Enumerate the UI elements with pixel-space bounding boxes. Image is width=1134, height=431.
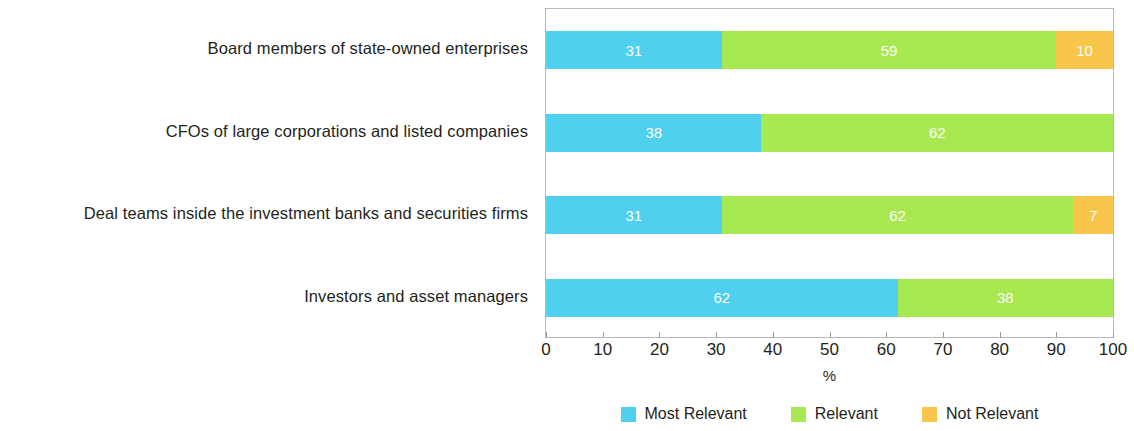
bar-segment: 7 — [1073, 196, 1113, 234]
x-axis-tick-label: 90 — [1047, 340, 1066, 360]
x-axis-tick-label: 70 — [933, 340, 952, 360]
x-axis-tick — [1000, 332, 1001, 338]
category-axis-labels: Board members of state-owned enterprises… — [0, 8, 536, 338]
bar-segment: 10 — [1056, 31, 1113, 69]
bar-segment-value: 59 — [881, 43, 898, 58]
bar-segment-value: 7 — [1089, 208, 1097, 223]
plot-area: 3159103862316276238 — [545, 8, 1114, 338]
x-axis-tick — [886, 332, 887, 338]
bar-segment: 59 — [722, 31, 1057, 69]
bar-segment-value: 62 — [713, 290, 730, 305]
x-axis-tick — [546, 332, 547, 338]
legend-swatch-icon — [791, 407, 806, 422]
x-axis-tick — [830, 332, 831, 338]
bar-row: 31627 — [546, 196, 1113, 234]
bar-segment: 62 — [761, 114, 1113, 152]
x-axis-tick-label: 0 — [541, 340, 550, 360]
stacked-bar-chart-figure: Board members of state-owned enterprises… — [0, 0, 1134, 431]
legend-swatch-icon — [621, 407, 636, 422]
category-label-3: Investors and asset managers — [0, 287, 528, 305]
x-axis-tick-label: 80 — [990, 340, 1009, 360]
x-axis-tick — [603, 332, 604, 338]
bar-segment-value: 38 — [997, 290, 1014, 305]
bar-segment: 31 — [546, 31, 722, 69]
x-axis-tick-label: 40 — [763, 340, 782, 360]
bar-row: 6238 — [546, 279, 1113, 317]
x-axis-tick — [773, 332, 774, 338]
bar-segment: 38 — [546, 114, 761, 152]
legend-label: Not Relevant — [946, 405, 1039, 423]
x-axis-tick-label: 50 — [820, 340, 839, 360]
bar-row: 315910 — [546, 31, 1113, 69]
bar-segment: 62 — [546, 279, 898, 317]
bar-segment: 62 — [722, 196, 1074, 234]
legend-item: Most Relevant — [621, 405, 747, 423]
x-axis-title: % — [545, 367, 1114, 384]
x-axis: 0102030405060708090100 — [545, 338, 1114, 368]
x-axis-tick — [659, 332, 660, 338]
legend-label: Most Relevant — [645, 405, 747, 423]
chart-legend: Most RelevantRelevantNot Relevant — [545, 403, 1114, 425]
x-axis-tick — [1056, 332, 1057, 338]
bars-container: 3159103862316276238 — [546, 9, 1113, 337]
x-axis-tick-label: 20 — [650, 340, 669, 360]
category-label-2: Deal teams inside the investment banks a… — [0, 204, 528, 222]
bar-segment-value: 31 — [626, 208, 643, 223]
legend-item: Not Relevant — [922, 405, 1039, 423]
bar-segment: 31 — [546, 196, 722, 234]
x-axis-tick — [943, 332, 944, 338]
bar-segment-value: 62 — [889, 208, 906, 223]
category-label-1: CFOs of large corporations and listed co… — [0, 122, 528, 140]
x-axis-tick-label: 100 — [1099, 340, 1127, 360]
x-axis-tick — [1113, 332, 1114, 338]
legend-item: Relevant — [791, 405, 878, 423]
bar-row: 3862 — [546, 114, 1113, 152]
x-axis-tick-label: 30 — [707, 340, 726, 360]
bar-segment-value: 62 — [929, 125, 946, 140]
category-label-0: Board members of state-owned enterprises — [0, 39, 528, 57]
legend-swatch-icon — [922, 407, 937, 422]
x-axis-tick-label: 60 — [877, 340, 896, 360]
x-axis-tick — [716, 332, 717, 338]
bar-segment-value: 10 — [1076, 43, 1093, 58]
bar-segment-value: 31 — [626, 43, 643, 58]
x-axis-tick-label: 10 — [593, 340, 612, 360]
bar-segment-value: 38 — [645, 125, 662, 140]
bar-segment: 38 — [898, 279, 1113, 317]
legend-label: Relevant — [815, 405, 878, 423]
